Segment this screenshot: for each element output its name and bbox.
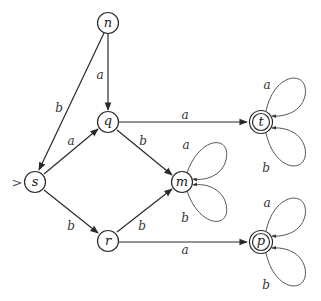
edge-label-s-r: b bbox=[67, 219, 75, 233]
node-s[interactable]: s bbox=[25, 172, 46, 193]
edge-label-n-q: a bbox=[96, 68, 103, 82]
state-label-n: n bbox=[104, 15, 112, 30]
state-label-p: p bbox=[257, 233, 266, 248]
edges: a b a b a b b a bbox=[39, 33, 247, 257]
node-r[interactable]: r bbox=[98, 231, 119, 252]
state-label-s: s bbox=[32, 174, 39, 189]
state-label-m: m bbox=[176, 174, 188, 189]
loop-label-t-b: b bbox=[262, 161, 270, 175]
automaton-diagram: a b a b a b b a a b a b bbox=[0, 0, 321, 301]
loop-p-b bbox=[266, 248, 305, 286]
node-p[interactable]: p bbox=[250, 231, 273, 254]
self-loops: a b a b a b bbox=[181, 78, 305, 292]
edge-label-s-q: a bbox=[67, 134, 74, 148]
loop-t-a bbox=[266, 78, 305, 116]
edge-label-q-t: a bbox=[181, 108, 188, 122]
edge-label-q-m: b bbox=[139, 134, 147, 148]
loop-label-t-a: a bbox=[263, 78, 270, 92]
loop-label-p-a: a bbox=[263, 196, 270, 210]
loop-t-b bbox=[266, 128, 305, 166]
loop-label-m-a: a bbox=[182, 138, 189, 152]
loop-label-p-b: b bbox=[262, 278, 270, 292]
edge-label-n-s: b bbox=[55, 101, 63, 115]
state-label-q: q bbox=[104, 113, 112, 128]
edge-label-r-p: a bbox=[181, 243, 188, 257]
node-m[interactable]: m bbox=[172, 172, 193, 193]
loop-p-a bbox=[266, 198, 305, 236]
edge-label-r-m: b bbox=[138, 219, 146, 233]
loop-m-b bbox=[187, 185, 227, 222]
state-label-t: t bbox=[258, 114, 264, 129]
loop-m-a bbox=[187, 143, 227, 180]
node-n[interactable]: n bbox=[98, 13, 119, 34]
state-label-r: r bbox=[105, 233, 112, 248]
loop-label-m-b: b bbox=[181, 211, 189, 225]
node-q[interactable]: q bbox=[98, 112, 119, 133]
node-t[interactable]: t bbox=[250, 111, 273, 134]
start-marker: > bbox=[12, 175, 23, 190]
edge-n-s bbox=[39, 33, 104, 170]
